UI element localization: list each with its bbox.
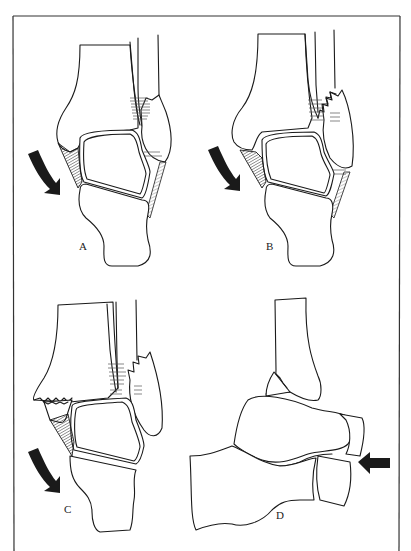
panel-label-d: D bbox=[276, 509, 284, 521]
fibula-a-3 bbox=[158, 35, 159, 95]
panel-label-b: B bbox=[266, 240, 273, 252]
calcaneus-b bbox=[265, 184, 334, 266]
cuboid-d bbox=[317, 456, 351, 506]
fibula-b-3 bbox=[334, 30, 335, 88]
force-arrow-c bbox=[28, 448, 60, 493]
force-arrow-b bbox=[208, 146, 240, 191]
panel-label-c: C bbox=[64, 503, 71, 515]
panel-c bbox=[28, 300, 162, 532]
tibia-c bbox=[33, 302, 118, 402]
force-arrow-d bbox=[358, 452, 390, 474]
panel-label-a: A bbox=[79, 240, 87, 252]
panel-b bbox=[208, 30, 353, 266]
calcaneus-d bbox=[190, 446, 316, 530]
panel-a bbox=[28, 35, 171, 266]
figure-frame: A B C D bbox=[0, 0, 411, 551]
fibula-c-3 bbox=[136, 300, 137, 360]
force-arrow-a bbox=[28, 150, 60, 195]
panel-d bbox=[190, 298, 390, 530]
talus-d bbox=[234, 396, 352, 462]
calcaneus-c bbox=[70, 456, 136, 532]
lateral-malleolus-b bbox=[322, 90, 353, 168]
ankle-fracture-illustration bbox=[0, 0, 411, 551]
